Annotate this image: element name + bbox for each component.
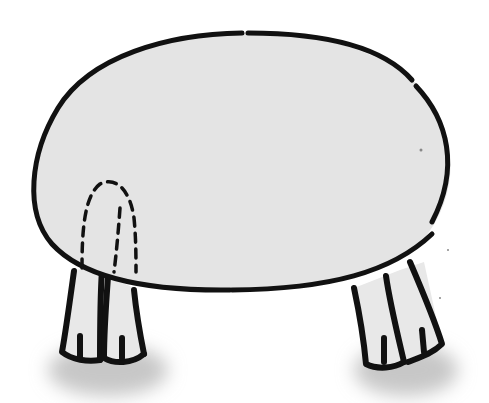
speck [420, 149, 423, 152]
speck [447, 249, 449, 251]
animal-body [33, 33, 450, 290]
illustration-canvas [0, 0, 489, 403]
back-right-legs [354, 262, 442, 368]
speck [439, 297, 441, 299]
leg-outline-stroke [422, 330, 424, 352]
